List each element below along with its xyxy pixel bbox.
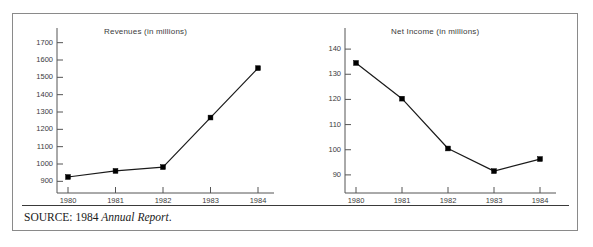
ytick-label-0-2: 1100 [17, 142, 53, 151]
charts-svg [0, 0, 593, 247]
ytick-label-1-3: 120 [305, 94, 341, 103]
source-suffix: . [169, 211, 172, 223]
xtick-label-0-4: 1984 [242, 196, 274, 205]
ytick-label-1-1: 100 [305, 145, 341, 154]
xtick-label-1-1: 1981 [386, 196, 418, 205]
charts-area: Revenues (in millions) Net Income (in mi… [0, 0, 593, 247]
source-title: Annual Report [101, 211, 168, 223]
source-divider [22, 205, 569, 206]
xtick-label-0-0: 1980 [52, 196, 84, 205]
xtick-label-1-3: 1983 [478, 196, 510, 205]
xtick-label-0-1: 1981 [100, 196, 132, 205]
xtick-label-1-0: 1980 [340, 196, 372, 205]
ytick-label-0-8: 1700 [17, 38, 53, 47]
ytick-label-0-3: 1200 [17, 124, 53, 133]
ytick-label-1-4: 130 [305, 69, 341, 78]
chart-title-revenues: Revenues (in millions) [104, 27, 187, 36]
chart-title-net-income: Net Income (in millions) [391, 27, 479, 36]
xtick-label-1-2: 1982 [432, 196, 464, 205]
ytick-label-0-7: 1600 [17, 55, 53, 64]
xtick-label-0-3: 1983 [195, 196, 227, 205]
ytick-label-1-2: 110 [305, 120, 341, 129]
ytick-label-1-0: 90 [305, 170, 341, 179]
ytick-label-0-4: 1300 [17, 107, 53, 116]
ytick-label-1-5: 140 [305, 44, 341, 53]
source-prefix: SOURCE: 1984 [24, 211, 101, 223]
xtick-label-0-2: 1982 [147, 196, 179, 205]
ytick-label-0-5: 1400 [17, 90, 53, 99]
source-note: SOURCE: 1984 Annual Report. [24, 211, 172, 223]
ytick-label-0-1: 1000 [17, 159, 53, 168]
ytick-label-0-0: 900 [17, 176, 53, 185]
ytick-label-0-6: 1500 [17, 72, 53, 81]
figure-container: Revenues (in millions) Net Income (in mi… [0, 0, 593, 247]
xtick-label-1-4: 1984 [524, 196, 556, 205]
